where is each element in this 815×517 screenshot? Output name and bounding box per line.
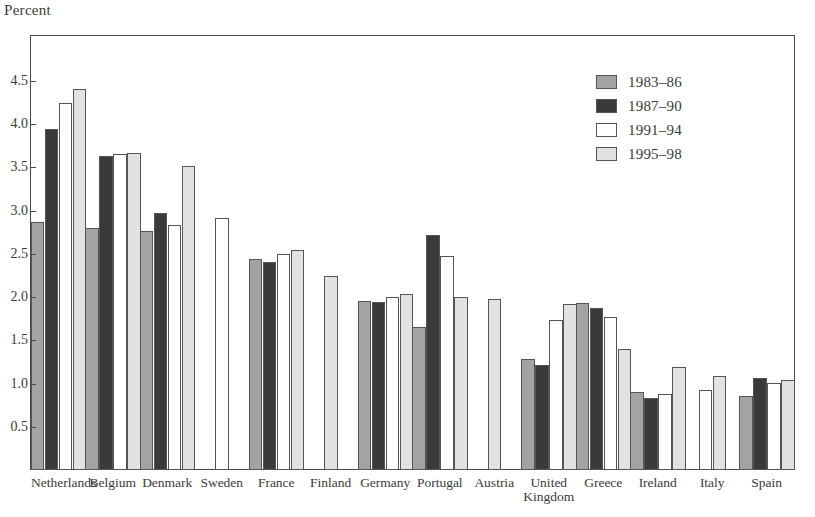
legend-label: 1991–94 [628, 122, 682, 139]
bar [549, 320, 563, 470]
legend-item: 1991–94 [596, 118, 682, 142]
bar [249, 259, 263, 470]
bar [324, 276, 338, 471]
bar [154, 213, 168, 470]
legend-item: 1987–90 [596, 94, 682, 118]
bar [535, 365, 549, 470]
x-axis-tick-label: Spain [740, 476, 795, 490]
bars-layer [0, 0, 815, 517]
bar [644, 398, 658, 470]
bar [618, 349, 632, 470]
x-axis-tick-label: Denmark [140, 476, 195, 490]
bar [168, 225, 182, 471]
legend-swatch-icon [596, 123, 617, 137]
bar [767, 383, 781, 470]
legend-swatch-icon [596, 147, 617, 161]
bar [521, 359, 535, 470]
bar [739, 396, 753, 470]
x-axis-tick-label: France [249, 476, 304, 490]
y-axis-tick-mark [30, 81, 36, 82]
x-axis-tick-label: Germany [358, 476, 413, 490]
legend-label: 1983–86 [628, 74, 682, 91]
x-axis-tick-label: Belgium [86, 476, 141, 490]
bar [140, 231, 154, 470]
legend-swatch-icon [596, 75, 617, 89]
legend-item: 1995–98 [596, 142, 682, 166]
bar [263, 262, 277, 470]
y-axis-tick-mark [30, 427, 36, 428]
bar [45, 129, 59, 470]
x-axis-tick-label: Ireland [631, 476, 686, 490]
y-axis-tick-mark [30, 211, 36, 212]
x-axis-tick-label: Finland [304, 476, 359, 490]
bar [73, 89, 87, 470]
bar [604, 317, 618, 470]
legend-item: 1983–86 [596, 70, 682, 94]
x-axis-tick-label: Austria [467, 476, 522, 490]
y-axis-tick-mark [30, 124, 36, 125]
bar [454, 297, 468, 470]
legend-swatch-icon [596, 99, 617, 113]
bar [488, 299, 502, 470]
x-axis-tick-label: Netherlands [31, 476, 86, 490]
bar [400, 294, 414, 470]
x-axis-tick-label: Portugal [413, 476, 468, 490]
bar [672, 367, 686, 470]
y-axis-tick-mark [30, 167, 36, 168]
y-axis-tick-mark [30, 384, 36, 385]
y-axis-tick-mark [30, 340, 36, 341]
bar [576, 303, 590, 470]
legend-label: 1987–90 [628, 98, 682, 115]
x-axis-tick-label: Sweden [195, 476, 250, 490]
bar [372, 302, 386, 470]
bar-chart: Percent 0.51.01.52.02.53.03.54.04.5 1983… [0, 0, 815, 517]
bar [31, 222, 45, 470]
bar [563, 304, 577, 470]
bar [590, 308, 604, 471]
bar [426, 235, 440, 470]
x-axis-tick-label: Greece [576, 476, 631, 490]
bar [753, 378, 767, 470]
bar [85, 228, 99, 470]
bar [412, 327, 426, 470]
bar [386, 297, 400, 470]
bar [781, 380, 795, 470]
bar [699, 390, 713, 470]
bar [182, 166, 196, 470]
bar [215, 218, 229, 470]
bar [358, 301, 372, 470]
y-axis-tick-mark [30, 254, 36, 255]
bar [658, 394, 672, 470]
bar [127, 153, 141, 470]
bar [113, 154, 127, 470]
bar [59, 103, 73, 470]
x-axis-tick-label: Italy [685, 476, 740, 490]
legend-label: 1995–98 [628, 146, 682, 163]
chart-legend: 1983–861987–901991–941995–98 [596, 70, 682, 166]
x-axis-tick-label: United Kingdom [522, 476, 577, 504]
bar [99, 156, 113, 470]
bar [440, 256, 454, 470]
bar [291, 250, 305, 470]
bar [277, 254, 291, 470]
bar [713, 376, 727, 470]
y-axis-tick-mark [30, 297, 36, 298]
bar [630, 392, 644, 470]
